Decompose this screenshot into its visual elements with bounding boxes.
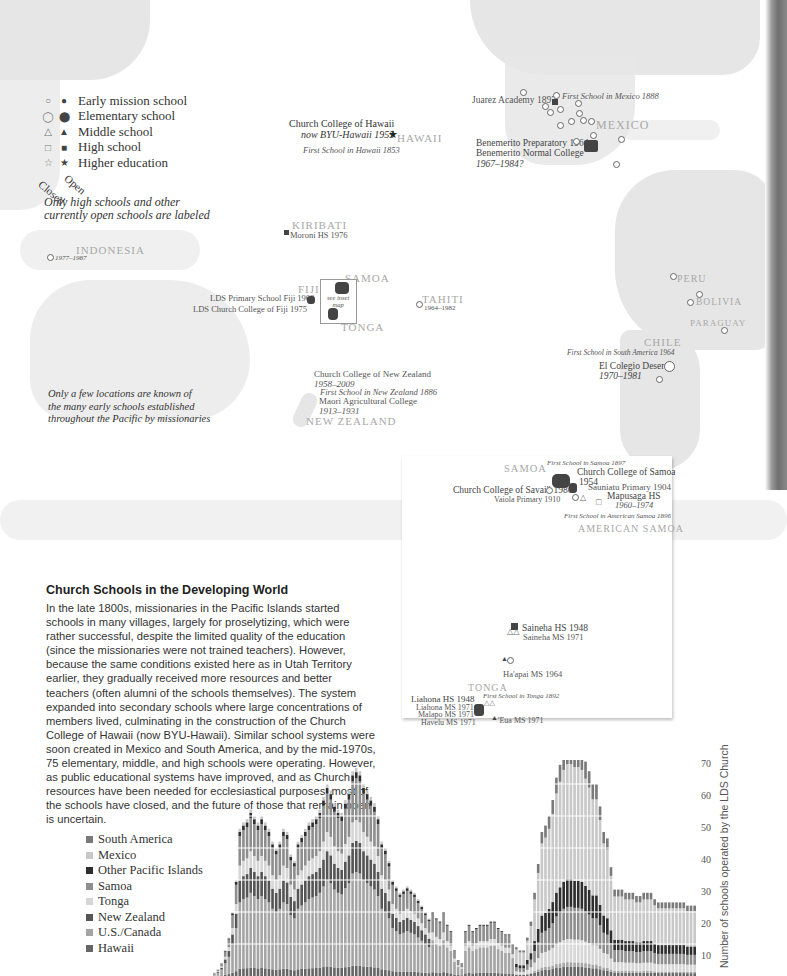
- bar-segment: [380, 889, 383, 909]
- bar-segment: [319, 851, 322, 868]
- inset-amsamoa-first: First School in American Samoa 1896: [564, 513, 671, 521]
- bar-segment: [584, 963, 587, 967]
- bar-segment: [249, 968, 252, 976]
- bar-segment: [249, 810, 252, 813]
- bar-segment: [351, 822, 354, 842]
- swatch-samoa: [86, 883, 93, 890]
- bar-segment: [275, 912, 278, 970]
- bar-segment: [595, 799, 598, 895]
- bar-segment: [664, 972, 667, 973]
- bar-segment: [388, 863, 391, 866]
- legend-row-high: □ ■ High school: [40, 140, 187, 156]
- bar-segment: [235, 885, 238, 904]
- bar-segment: [591, 799, 594, 895]
- bar-segment: [511, 945, 514, 955]
- bar-segment: [591, 964, 594, 968]
- bar-segment: [519, 950, 522, 952]
- bar-segment: [246, 874, 249, 898]
- bar-segment: [391, 971, 394, 976]
- bar-segment: [679, 945, 682, 954]
- bar-segment: [260, 819, 263, 824]
- bar-segment: [635, 963, 638, 971]
- bar-segment: [573, 967, 576, 976]
- bar-segment: [559, 887, 562, 912]
- bar-segment: [562, 760, 565, 770]
- bar-segment: [268, 832, 271, 836]
- bar-segment: [275, 854, 278, 880]
- square-icon: [307, 296, 315, 304]
- bar-segment: [541, 832, 544, 844]
- bar-segment: [544, 826, 547, 838]
- bar-segment: [329, 967, 332, 976]
- bar-segment: [639, 896, 642, 902]
- bar-segment: [497, 949, 500, 973]
- bar-segment: [369, 886, 372, 967]
- circle-icon: [557, 106, 564, 113]
- bar-segment: [417, 899, 420, 901]
- bar-segment: [268, 880, 271, 902]
- bar-segment: [693, 911, 696, 946]
- bar-segment: [653, 953, 656, 964]
- bar-segment: [595, 945, 598, 964]
- circle-icon: [580, 117, 587, 124]
- bar-segment: [264, 822, 267, 825]
- swatch-south-america: [86, 836, 93, 843]
- bar-segment: [424, 944, 427, 973]
- bar-segment: [570, 967, 573, 976]
- bar-segment: [340, 870, 343, 894]
- inset-locator-box[interactable]: see inset map: [320, 279, 357, 324]
- bar-segment: [322, 806, 325, 842]
- bar-segment: [329, 794, 332, 800]
- bar-segment: [693, 972, 696, 973]
- bar-segment: [228, 947, 231, 951]
- bar-segment: [690, 972, 693, 973]
- bar-segment: [406, 972, 409, 976]
- bar-segment: [577, 962, 580, 967]
- bar-segment: [271, 969, 274, 976]
- bar-segment: [493, 946, 496, 973]
- bar-segment: [595, 918, 598, 945]
- bar-segment: [366, 883, 369, 967]
- bar-segment: [333, 864, 336, 890]
- bar-segment: [410, 890, 413, 892]
- bar-segment: [482, 925, 485, 926]
- bar-segment: [373, 803, 376, 806]
- bar-segment: [490, 922, 493, 923]
- bar-segment: [417, 903, 420, 918]
- bar-segment: [439, 923, 442, 939]
- y-tick-40: 40: [701, 854, 711, 865]
- bar-segment: [417, 926, 420, 938]
- bar-segment: [377, 824, 380, 856]
- bar-segment: [628, 941, 631, 951]
- bar-segment: [289, 857, 292, 861]
- bar-segment: [260, 896, 263, 968]
- bar-segment: [242, 825, 245, 830]
- bar-segment: [279, 969, 282, 976]
- bar-segment: [355, 778, 358, 820]
- bar-segment: [413, 922, 416, 934]
- bar-segment: [591, 945, 594, 964]
- bar-segment: [464, 951, 467, 973]
- swatch-mexico: [86, 852, 93, 859]
- bar-segment: [388, 970, 391, 976]
- bar-segment: [271, 889, 274, 909]
- bar-segment: [428, 939, 431, 948]
- bar-segment: [351, 775, 354, 781]
- bar-segment: [308, 899, 311, 968]
- bar-segment: [606, 968, 609, 971]
- y-axis-title: Number of schools operated by the LDS Ch…: [718, 744, 730, 968]
- bar-segment: [402, 890, 405, 892]
- bar-segment: [479, 925, 482, 926]
- bar-segment: [493, 923, 496, 939]
- bar-segment: [384, 854, 387, 880]
- bar-segment: [530, 973, 533, 974]
- bar-segment: [293, 867, 296, 890]
- y-tick-50: 50: [701, 822, 711, 833]
- bar-segment: [460, 967, 463, 969]
- bar-segment: [337, 893, 340, 968]
- bar-segment: [664, 964, 667, 971]
- bar-segment: [570, 760, 573, 764]
- bar-segment: [442, 932, 445, 940]
- bar-segment: [577, 760, 580, 767]
- legend-row-elementary: ◯ ⬤ Elementary school: [40, 109, 187, 125]
